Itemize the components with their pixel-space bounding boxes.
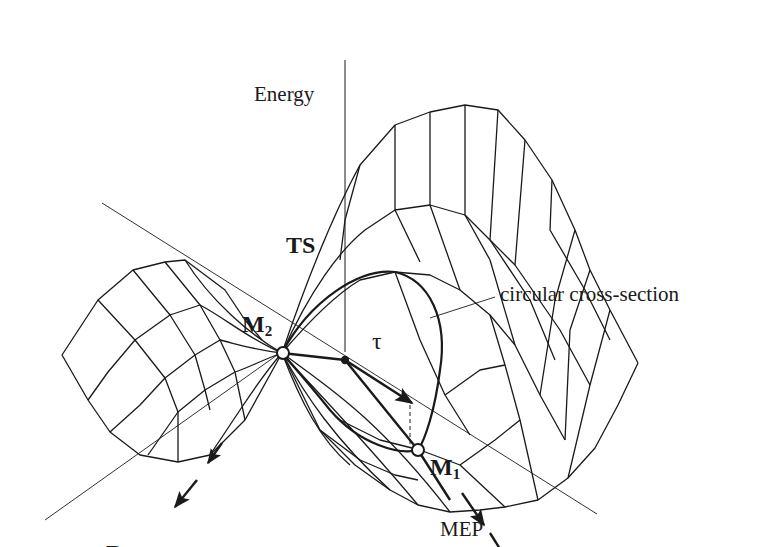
projection-line — [45, 353, 280, 520]
mep-path — [282, 353, 450, 500]
tau-arrow — [345, 360, 412, 403]
product-arrow-2 — [490, 533, 512, 547]
m1-point-marker — [412, 444, 424, 456]
reactant-label: Reactant — [106, 541, 198, 547]
m1-label-sub: 1 — [453, 466, 461, 482]
tau-label: τ — [372, 329, 382, 353]
energy-surface-diagram — [0, 0, 769, 547]
tangent-line — [102, 203, 597, 514]
m1-label-main: M — [430, 454, 453, 480]
reactant-arrow-1 — [208, 443, 222, 463]
cross-section-label: circular cross-section — [500, 284, 679, 305]
transition-state-label: TS — [286, 233, 315, 257]
mep-label: MEP — [440, 519, 483, 540]
m2-point-marker — [277, 347, 289, 359]
m2-label-main: M — [242, 311, 265, 337]
m1-label: M1 — [430, 455, 460, 482]
m2-label-sub: 2 — [265, 323, 273, 339]
reactant-arrow-2 — [175, 480, 197, 507]
tau-origin-dot — [342, 357, 349, 364]
energy-axis-label: Energy — [254, 84, 314, 105]
circular-cross-section — [282, 272, 442, 452]
m2-label: M2 — [242, 312, 272, 339]
left-lobe-mesh — [62, 260, 282, 462]
cross-section-callout — [430, 297, 495, 318]
